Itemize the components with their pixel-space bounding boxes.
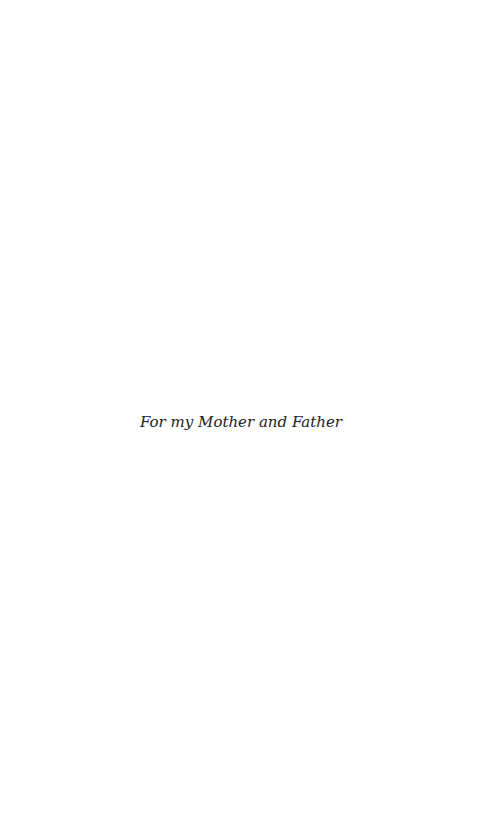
dedication-page: For my Mother and Father xyxy=(0,0,486,819)
dedication-text: For my Mother and Father xyxy=(140,413,342,431)
